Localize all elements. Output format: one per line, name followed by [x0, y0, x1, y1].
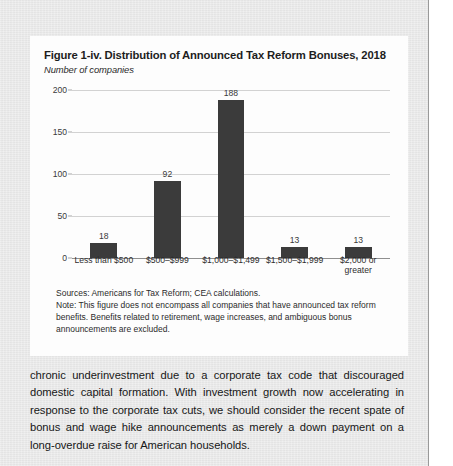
bar-value-label: 13 [326, 235, 390, 245]
figure-subtitle: Number of companies [44, 64, 394, 75]
bar-value-label: 188 [199, 88, 263, 98]
x-axis-labels: Less than $500$500–$999$1,000–$1,499$1,5… [72, 256, 390, 280]
y-tick-label-200: 200 [53, 85, 67, 95]
plot-area: 050100150200 18921881313 [72, 90, 390, 258]
bar [154, 181, 181, 258]
x-axis-label: $500–$999 [136, 256, 200, 280]
y-tick-label-50: 50 [57, 211, 67, 221]
body-text: chronic underinvestment due to a corpora… [30, 367, 404, 454]
bar-series: 18921881313 [72, 90, 390, 258]
bar-chart: 050100150200 18921881313 Less than $500$… [44, 84, 394, 280]
figure-notes: Sources: Americans for Tax Reform; CEA c… [44, 287, 394, 335]
bar-slot: 13 [263, 90, 327, 258]
body-paragraph: chronic underinvestment due to a corpora… [30, 367, 404, 454]
x-axis-label: Less than $500 [72, 256, 136, 280]
x-axis-label: $1,000–$1,499 [199, 256, 263, 280]
bar-slot: 13 [326, 90, 390, 258]
y-tick-label-0: 0 [62, 253, 67, 263]
figure-sources: Sources: Americans for Tax Reform; CEA c… [56, 287, 386, 299]
document-page: Figure 1-iv. Distribution of Announced T… [0, 0, 429, 466]
bar [218, 100, 245, 258]
bar-slot: 92 [136, 90, 200, 258]
figure-title: Figure 1-iv. Distribution of Announced T… [44, 48, 394, 62]
x-axis-label: $2,000 or greater [326, 256, 390, 280]
figure-card: Figure 1-iv. Distribution of Announced T… [30, 36, 408, 356]
bar-slot: 18 [72, 90, 136, 258]
x-axis-label: $1,500–$1,999 [263, 256, 327, 280]
figure-note: Note: This figure does not encompass all… [56, 299, 386, 335]
y-tick-label-150: 150 [53, 127, 67, 137]
y-tick-label-100: 100 [53, 169, 67, 179]
bar-value-label: 92 [136, 169, 200, 179]
bar-value-label: 18 [72, 231, 136, 241]
bar-slot: 188 [199, 90, 263, 258]
bar-value-label: 13 [263, 235, 327, 245]
